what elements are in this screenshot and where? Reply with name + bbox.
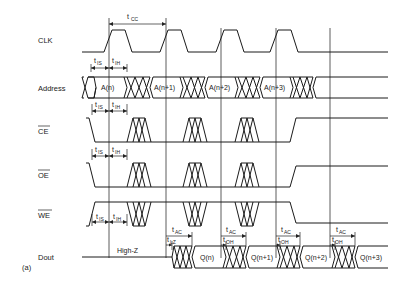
- address-an2-label: A(n+2): [209, 84, 230, 92]
- svg-text:t: t: [112, 146, 114, 153]
- svg-text:IH: IH: [116, 216, 121, 222]
- svg-text:OH: OH: [335, 239, 343, 245]
- oe-setup-hold-dimension: t IS t IH: [92, 146, 127, 160]
- svg-text:AC: AC: [339, 229, 346, 235]
- address-an-label: A(n): [101, 84, 114, 92]
- figure-label: (a): [22, 263, 32, 272]
- svg-text:t: t: [94, 57, 96, 64]
- svg-text:t: t: [167, 236, 169, 243]
- svg-text:t: t: [223, 236, 225, 243]
- svg-text:AC: AC: [229, 229, 236, 235]
- ce-setup-hold-dimension: t IS t IH: [92, 101, 127, 115]
- dout-qn2-label: Q(n+2): [305, 254, 327, 262]
- svg-text:t: t: [336, 226, 338, 233]
- svg-text:t: t: [96, 213, 98, 220]
- svg-text:t: t: [278, 236, 280, 243]
- svg-text:IH: IH: [115, 60, 120, 66]
- clock-edge-reference-lines: [109, 18, 330, 258]
- label-ce: CE: [38, 127, 48, 136]
- svg-text:t: t: [95, 101, 97, 108]
- oe-waveform: [86, 163, 388, 187]
- svg-text:t: t: [127, 13, 129, 20]
- svg-text:IH: IH: [115, 149, 120, 155]
- we-setup-hold-dimension: t IS t IH: [92, 213, 127, 226]
- svg-text:IS: IS: [99, 216, 104, 222]
- clk-waveform: [82, 30, 388, 52]
- svg-text:t: t: [332, 236, 334, 243]
- svg-text:t: t: [281, 226, 283, 233]
- label-we: WE: [38, 211, 50, 220]
- svg-text:AC: AC: [175, 229, 182, 235]
- dout-qn3-label: Q(n+3): [360, 254, 382, 262]
- dout-qn1-label: Q(n+1): [251, 254, 273, 262]
- svg-text:OH: OH: [226, 239, 234, 245]
- svg-text:IH: IH: [115, 104, 120, 110]
- svg-text:t: t: [112, 57, 114, 64]
- svg-text:t: t: [226, 226, 228, 233]
- svg-text:t: t: [95, 146, 97, 153]
- address-an3-label: A(n+3): [264, 84, 285, 92]
- svg-text:t: t: [172, 226, 174, 233]
- address-bus: [82, 77, 388, 98]
- svg-text:LZ: LZ: [170, 239, 176, 245]
- dout-qn-label: Q(n): [200, 254, 214, 262]
- label-clk: CLK: [38, 36, 53, 45]
- svg-text:t: t: [112, 101, 114, 108]
- timing-diagram: CLK Address CE OE WE Dout (a) t CC t IS …: [0, 0, 407, 289]
- svg-text:AC: AC: [284, 229, 291, 235]
- address-an1-label: A(n+1): [154, 84, 175, 92]
- tcc-dimension: t CC: [109, 13, 166, 26]
- svg-text:t: t: [113, 213, 115, 220]
- svg-text:OH: OH: [281, 239, 289, 245]
- label-dout: Dout: [38, 253, 55, 262]
- svg-text:IS: IS: [98, 149, 103, 155]
- svg-text:IS: IS: [97, 60, 102, 66]
- label-oe: OE: [38, 171, 49, 180]
- we-waveform: [86, 202, 388, 226]
- dout-high-z-label: High-Z: [117, 247, 139, 255]
- svg-text:CC: CC: [131, 16, 139, 22]
- label-address: Address: [38, 84, 66, 93]
- svg-text:IS: IS: [98, 104, 103, 110]
- ce-waveform: [86, 118, 388, 142]
